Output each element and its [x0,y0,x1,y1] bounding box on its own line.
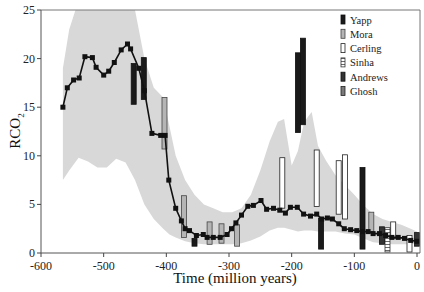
y-tick-label: 25 [23,3,35,17]
model-curve-marker [371,231,376,236]
model-curve-marker [330,217,335,222]
legend-label: Mora [350,29,373,40]
model-curve-marker [229,226,234,231]
legend-label: Cerling [350,43,382,54]
model-curve-marker [377,231,382,236]
model-curve-marker [319,217,324,222]
y-tick-label: 5 [29,197,35,211]
proxy-bar-mora [219,224,224,243]
y-axis: 0510152025 [23,3,41,260]
model-curve-marker [128,46,133,51]
y-tick-label: 0 [29,246,35,260]
model-curve-marker [408,238,413,243]
legend-label: Ghosh [350,86,378,97]
legend-item-ghosh: Ghosh [341,86,378,97]
model-curve-marker [205,235,210,240]
legend: YappMoraCerlingSinhaAndrewsGhosh [341,15,388,98]
model-curve-marker [283,211,288,216]
model-curve-marker [163,133,168,138]
model-curve-marker [239,213,244,218]
model-curve-marker [149,131,154,136]
model-curve-marker [264,207,269,212]
model-curve-marker [94,65,99,70]
legend-item-yapp: Yapp [341,15,372,26]
proxy-bar-cerling [342,155,347,219]
proxy-bar-sinha [385,228,390,252]
legend-item-sinha: Sinha [341,57,374,68]
proxy-bar-yapp [319,218,324,249]
model-curve-marker [166,178,171,183]
model-curve-marker [112,60,117,65]
model-curve-marker [288,205,293,210]
model-curve-marker [366,229,371,234]
proxy-bar-yapp [295,53,300,133]
legend-item-mora: Mora [341,29,373,40]
y-tick-label: 15 [23,100,35,114]
model-curve-marker [383,233,388,238]
model-curve-marker [396,235,401,240]
x-tick-label: -500 [93,259,115,273]
model-curve-marker [101,73,106,78]
model-curve-marker [415,239,420,244]
model-curve-marker [187,228,192,233]
proxy-bar-yapp [300,38,305,125]
model-curve-marker [60,105,65,110]
model-curve-marker [65,85,70,90]
proxy-bar-yapp [131,64,136,105]
model-curve-marker [360,229,365,234]
model-curve-marker [218,235,223,240]
proxy-bar-cerling [336,161,341,215]
model-curve-marker [225,232,230,237]
chart: -600-500-400-300-200-1000 0510152025 Tim… [0,0,424,292]
legend-label: Andrews [350,72,388,83]
y-axis-title: RCO2 [7,113,26,148]
model-curve-marker [106,69,111,74]
model-curve-marker [348,227,353,232]
model-curve-marker [211,235,216,240]
model-curve-marker [314,212,319,217]
legend-swatch [341,44,345,53]
legend-swatch [341,15,345,24]
model-curve-marker [173,206,178,211]
model-curve-marker [342,226,347,231]
model-curve-marker [308,214,313,219]
x-axis-title: Time (million years) [173,270,297,287]
proxy-bar-cerling [314,150,319,206]
x-tick-label: -100 [343,259,365,273]
legend-swatch [341,29,345,38]
legend-label: Sinha [350,57,374,68]
x-tick-label: -600 [30,259,52,273]
legend-item-cerling: Cerling [341,43,382,54]
model-curve-marker [271,206,276,211]
legend-swatch [341,58,345,67]
legend-swatch [341,72,345,81]
model-curve-marker [245,204,250,209]
model-curve-marker [142,88,147,93]
proxy-bar-cerling [280,158,285,209]
model-curve-marker [179,218,184,223]
model-curve-marker [183,226,188,231]
model-curve-marker [82,54,87,59]
proxy-bar-mora [207,222,212,244]
model-curve-marker [402,236,407,241]
model-curve-marker [77,76,82,81]
proxy-bar-yapp [360,168,365,250]
model-curve-marker [125,42,130,47]
proxy-bar-mora [369,212,374,231]
model-curve-marker [336,221,341,226]
model-curve-marker [251,203,256,208]
model-curve-marker [325,216,330,221]
model-curve-marker [233,220,238,225]
model-curve-marker [389,235,394,240]
model-curve-marker [194,233,199,238]
y-axis-title-subscript: 2 [16,113,26,118]
model-curve-marker [301,212,306,217]
model-curve-marker [277,208,282,213]
model-curve-marker [119,47,124,52]
proxy-bar-mora [235,225,240,246]
proxy-bar-mora [181,196,186,238]
proxy-bar-yapp [192,238,197,246]
model-curve-marker [354,228,359,233]
legend-label: Yapp [350,15,372,26]
svg-text:RCO2: RCO2 [7,113,26,148]
